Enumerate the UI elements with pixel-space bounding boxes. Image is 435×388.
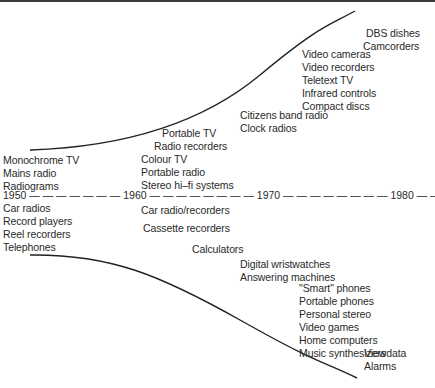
product-label: Viewdata bbox=[364, 347, 406, 360]
product-label: Portable TV bbox=[162, 127, 216, 140]
product-label: Car radios bbox=[3, 202, 50, 215]
product-label: Reel recorders bbox=[3, 228, 70, 241]
product-label: Radiograms bbox=[3, 180, 59, 193]
product-label: Home computers bbox=[299, 334, 378, 347]
product-label: Personal stereo bbox=[299, 308, 371, 321]
product-label: Alarms bbox=[364, 360, 396, 373]
product-label: Clock radios bbox=[240, 122, 297, 135]
product-label: Portable radio bbox=[141, 166, 205, 179]
product-label: Portable phones bbox=[299, 295, 374, 308]
product-label: Calculators bbox=[192, 243, 243, 256]
product-label: Mains radio bbox=[3, 167, 56, 180]
product-label: Teletext TV bbox=[302, 74, 353, 87]
product-label: Digital wristwatches bbox=[240, 258, 330, 271]
product-label: Radio recorders bbox=[154, 140, 227, 153]
product-label: Infrared controls bbox=[302, 87, 376, 100]
product-label: "Smart" phones bbox=[299, 282, 370, 295]
product-label: Video games bbox=[299, 321, 359, 334]
product-label: DBS dishes bbox=[366, 27, 420, 40]
product-label: Compact discs bbox=[302, 100, 370, 113]
product-label: Stereo hi–fi systems bbox=[141, 179, 234, 192]
product-label: Colour TV bbox=[141, 153, 187, 166]
product-label: Telephones bbox=[3, 241, 56, 254]
product-label: Car radio/recorders bbox=[141, 204, 230, 217]
product-label: Video recorders bbox=[302, 61, 374, 74]
product-label: Video cameras bbox=[302, 48, 371, 61]
product-label: Monochrome TV bbox=[3, 154, 79, 167]
product-label: Cassette recorders bbox=[143, 222, 230, 235]
product-label: Camcorders bbox=[363, 40, 419, 53]
product-label: Record players bbox=[3, 215, 72, 228]
